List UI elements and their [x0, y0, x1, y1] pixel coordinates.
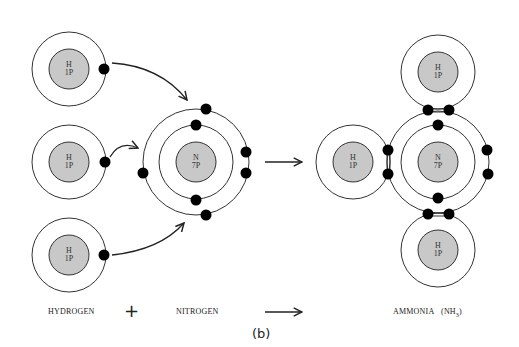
- electron: [138, 168, 149, 179]
- electron: [483, 169, 494, 180]
- ammonia-molecule: H 1P H 1P H 1P N 7P: [316, 35, 494, 287]
- electron: [433, 120, 444, 131]
- svg-text:1P: 1P: [349, 161, 358, 170]
- label-ammonia-close: ): [459, 307, 462, 316]
- label-plus: +: [124, 300, 139, 321]
- arrow-bottom-icon: [112, 223, 184, 255]
- electron: [423, 209, 434, 220]
- electron: [433, 193, 444, 204]
- svg-text:1P: 1P: [65, 68, 74, 77]
- svg-text:7P: 7P: [192, 161, 201, 170]
- svg-text:1P: 1P: [434, 71, 443, 80]
- hydrogen-atom-bottom: H 1P: [32, 218, 110, 292]
- svg-text:7P: 7P: [434, 161, 443, 170]
- electron: [241, 147, 252, 158]
- label-ammonia-formula: (NH: [441, 307, 456, 316]
- arrow-middle-icon: [110, 145, 138, 157]
- electron: [99, 250, 110, 261]
- svg-text:1P: 1P: [65, 254, 74, 263]
- electron: [383, 169, 394, 180]
- label-ammonia-name: AMMONIA: [393, 307, 434, 316]
- ammonia-formation-diagram: H 1P H 1P H 1P N 7P: [0, 0, 519, 347]
- hydrogen-atom-top: H 1P: [32, 32, 110, 106]
- label-ammonia: AMMONIA (NH3): [393, 307, 462, 318]
- svg-text:1P: 1P: [434, 249, 443, 258]
- hydrogen-atom-middle: H 1P: [32, 125, 111, 199]
- electron: [191, 120, 202, 131]
- electron: [100, 157, 111, 168]
- arrow-top-icon: [112, 63, 187, 100]
- electron: [444, 105, 455, 116]
- electron: [241, 168, 252, 179]
- svg-text:1P: 1P: [65, 161, 74, 170]
- electron: [444, 209, 455, 220]
- electron: [423, 105, 434, 116]
- label-hydrogen: HYDROGEN: [48, 307, 95, 316]
- electron: [99, 64, 110, 75]
- electron: [383, 145, 394, 156]
- electron: [191, 195, 202, 206]
- label-nitrogen: NITROGEN: [176, 307, 218, 316]
- electron: [201, 210, 212, 221]
- figure-caption: (b): [252, 326, 270, 341]
- electron: [482, 145, 493, 156]
- electron: [201, 104, 212, 115]
- nitrogen-atom: N 7P: [138, 104, 252, 221]
